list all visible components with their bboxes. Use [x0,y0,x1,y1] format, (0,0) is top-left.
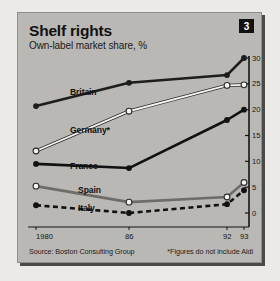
x-axis-tick-92: 92 [223,232,231,241]
y-axis-tick-15: 15 [252,131,260,140]
y-axis-tick-0: 0 [252,209,256,218]
series-label-spain: Spain [78,185,101,195]
y-axis-tick-25: 25 [252,79,260,88]
y-axis-tick-20: 20 [252,105,260,114]
series-label-italy: Italy [78,203,95,213]
x-axis-tick-93: 93 [240,232,248,241]
y-axis-tick-5: 5 [252,183,256,192]
chart-panel: Shelf rights Own-label market share, % 3… [17,12,262,263]
series-label-france: France [70,161,98,171]
y-axis-tick-30: 30 [252,54,260,63]
figures-note: *Figures do not include Aldi [167,247,253,256]
x-axis-tick-1980: 1980 [36,232,53,241]
chart-screenshot: Shelf rights Own-label market share, % 3… [0,0,280,281]
series-label-germany: Germany* [70,125,110,135]
y-axis-tick-10: 10 [252,157,260,166]
source-note: Source: Boston Consulting Group [29,247,135,256]
series-label-britain: Britain [70,87,97,97]
x-axis-tick-86: 86 [125,232,133,241]
line-chart-plot [18,13,261,262]
